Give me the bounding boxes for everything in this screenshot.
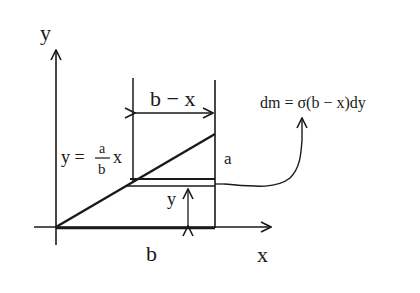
y-axis-label: y [40, 20, 51, 45]
strip-height-label: y [167, 189, 176, 209]
line-equation-var: x [113, 147, 122, 167]
height-label: a [224, 149, 232, 168]
pointer-curve-arrow [224, 118, 302, 186]
line-equation-lhs: y = [61, 147, 85, 167]
width-dimension-label: b − x [150, 86, 195, 111]
base-label: b [146, 241, 157, 266]
diagram-canvas: y x b − x b a y y = a b x dm = σ(b − x)d… [0, 0, 420, 293]
x-axis-label: x [257, 242, 268, 267]
line-equation-numerator: a [99, 141, 106, 156]
mass-element-equation: dm = σ(b − x)dy [260, 94, 366, 112]
triangle-diagram: y x b − x b a y y = a b x dm = σ(b − x)d… [0, 0, 420, 293]
line-equation-denominator: b [98, 161, 106, 177]
